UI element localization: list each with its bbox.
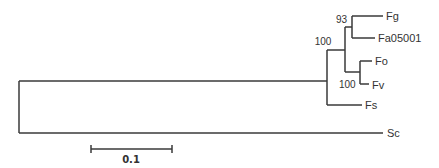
leaf-label-fg: Fg bbox=[386, 10, 399, 22]
support-value-100-lower: 100 bbox=[339, 79, 356, 90]
leaf-label-fa05001: Fa05001 bbox=[378, 32, 421, 44]
leaf-label-fs: Fs bbox=[365, 99, 378, 111]
scale-bar-label: 0.1 bbox=[122, 154, 140, 165]
leaf-label-sc: Sc bbox=[387, 127, 400, 139]
phylogenetic-tree: Fg Fa05001 Fo Fv Fs Sc 93 100 100 0.1 bbox=[0, 0, 439, 168]
support-value-100-upper: 100 bbox=[315, 36, 332, 47]
leaf-label-fv: Fv bbox=[372, 79, 385, 91]
leaf-label-fo: Fo bbox=[375, 55, 388, 67]
support-value-93: 93 bbox=[336, 14, 348, 25]
scale-bar: 0.1 bbox=[91, 145, 172, 165]
